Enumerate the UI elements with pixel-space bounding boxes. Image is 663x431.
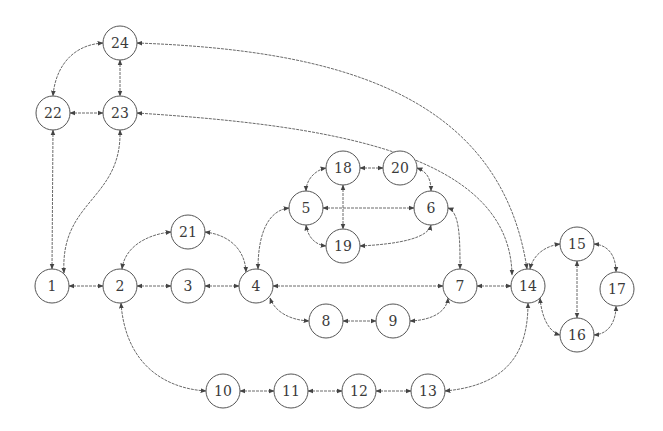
node-label-7: 7	[443, 269, 477, 303]
node-label-10: 10	[206, 374, 240, 408]
edge-21-4	[205, 232, 246, 272]
edge-4-8	[270, 298, 309, 321]
node-label-15: 15	[560, 227, 594, 261]
edge-5-18	[306, 168, 326, 191]
edge-14-16	[540, 298, 560, 335]
node-label-16: 16	[560, 318, 594, 352]
node-label-21: 21	[171, 215, 205, 249]
edge-20-6	[417, 168, 431, 191]
edge-2-21	[122, 232, 171, 269]
node-label-20: 20	[383, 151, 417, 185]
node-label-14: 14	[511, 269, 545, 303]
node-label-1: 1	[35, 269, 69, 303]
node-label-8: 8	[309, 304, 343, 338]
edge-16-17	[594, 306, 616, 335]
node-label-9: 9	[376, 304, 410, 338]
node-label-4: 4	[239, 269, 273, 303]
edge-23-14	[137, 113, 512, 275]
edge-13-14	[445, 303, 528, 391]
edge-4-5	[258, 208, 289, 269]
edge-19-6	[360, 225, 431, 246]
node-label-18: 18	[326, 151, 360, 185]
edge-23-1	[64, 130, 120, 273]
edge-15-17	[594, 244, 616, 272]
node-label-5: 5	[289, 191, 323, 225]
node-label-17: 17	[600, 272, 634, 306]
node-label-22: 22	[36, 96, 70, 130]
node-label-13: 13	[411, 374, 445, 408]
node-label-12: 12	[342, 374, 376, 408]
edge-22-1	[52, 130, 53, 269]
node-label-2: 2	[103, 269, 137, 303]
edge-6-7	[448, 208, 460, 269]
node-label-11: 11	[274, 374, 308, 408]
node-label-6: 6	[414, 191, 448, 225]
edge-5-19	[306, 225, 326, 246]
edge-2-10	[121, 303, 206, 391]
node-label-3: 3	[171, 269, 205, 303]
edge-24-22	[53, 43, 103, 96]
node-layer	[35, 26, 634, 408]
node-label-23: 23	[103, 96, 137, 130]
node-label-24: 24	[103, 26, 137, 60]
edge-14-15	[530, 244, 560, 269]
node-label-19: 19	[326, 229, 360, 263]
graph-diagram	[0, 0, 663, 431]
